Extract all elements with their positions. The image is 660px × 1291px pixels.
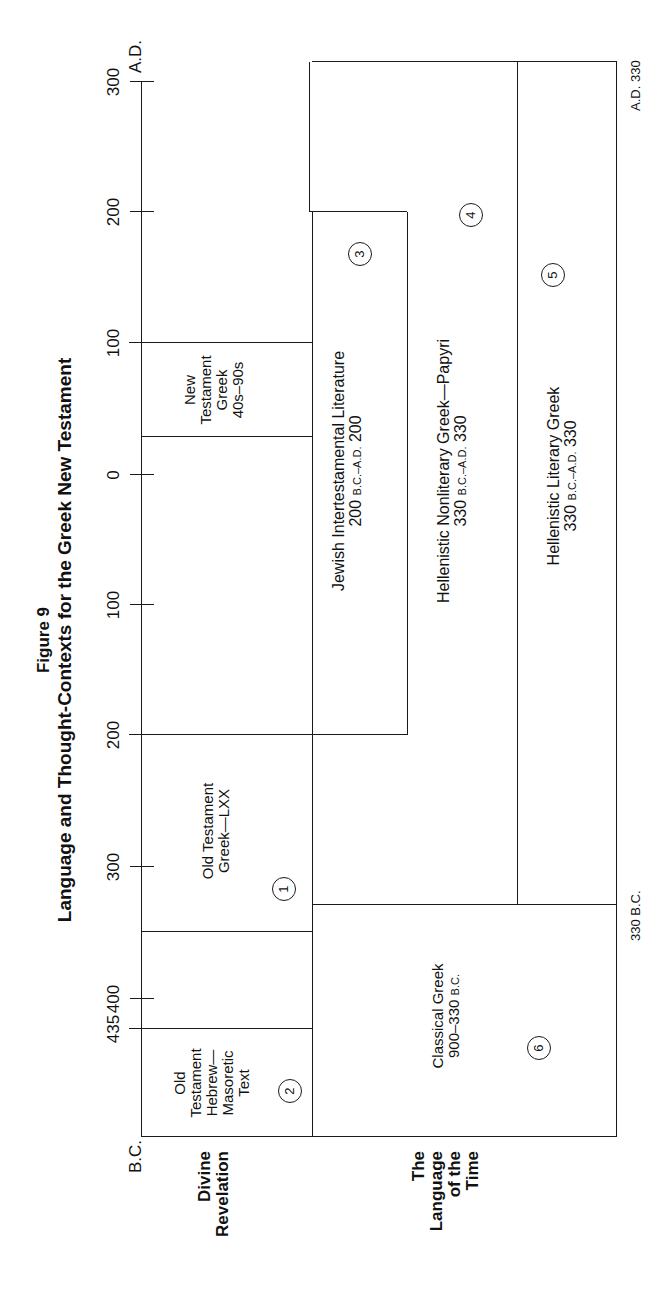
tick-label-0: 0	[104, 445, 124, 505]
tick-0	[130, 474, 154, 475]
box1-label: Old TestamentGreek—LXX	[200, 741, 232, 921]
tick-label-200ad: 200	[104, 182, 124, 242]
tick-label-300bc: 300	[104, 837, 124, 897]
tick-300bc	[130, 866, 154, 867]
label-ad330: A.D. 330	[628, 60, 643, 111]
divider-nt-start	[141, 436, 312, 437]
tick-label-200bc: 200	[104, 705, 124, 765]
circle-marker-6: 6	[527, 1036, 551, 1060]
tick-400bc	[130, 998, 154, 999]
tick-300ad	[130, 81, 154, 82]
box-nt-label: NewTestament Greek40s–90s	[182, 345, 246, 435]
time-row-right-edge	[312, 61, 617, 62]
tick-200ad	[130, 211, 154, 212]
figure-canvas: Figure 9 Language and Thought-Contexts f…	[0, 0, 660, 1291]
figure-number: Figure 9	[34, 440, 54, 840]
box3-end-200ad	[309, 211, 407, 212]
time-row-bottom-edge	[616, 62, 617, 1137]
tick-label-100ad: 100	[104, 313, 124, 373]
figure-title: Language and Thought-Contexts for the Gr…	[54, 290, 76, 990]
row-divider	[312, 211, 313, 1137]
tick-label-100bc: 100	[104, 575, 124, 635]
divider-330bc	[312, 904, 617, 905]
time-row-top-right	[309, 62, 310, 212]
label-330bc: 330 B.C.	[628, 890, 643, 941]
circle-marker-3: 3	[348, 242, 372, 266]
divider-200bc	[129, 734, 407, 735]
divider-350bc	[141, 931, 312, 932]
time-row-left-edge	[312, 1136, 617, 1137]
circle-marker-2: 2	[278, 1079, 302, 1103]
axis-era-bc: B.C.	[126, 1140, 146, 1173]
box3-label: Jewish Intertestamental Literature 200 B…	[330, 241, 366, 701]
box6-label: Classical Greek 900–330 B.C.	[430, 921, 463, 1111]
box5-label: Hellenistic Literary Greek 330 B.C.–A.D.…	[545, 261, 581, 691]
circle-marker-5: 5	[541, 263, 565, 287]
box4-label: Hellenistic Nonliterary Greek—Papyri 330…	[435, 221, 471, 721]
circle-marker-4: 4	[459, 203, 483, 227]
divider-100ad	[129, 342, 312, 343]
box3-bottom-edge	[407, 212, 408, 735]
divine-row-left-edge	[141, 1136, 312, 1137]
tick-label-400bc: 400	[104, 969, 124, 1029]
row-label-language-of-time: TheLanguage of theTime	[410, 1151, 482, 1261]
divider-435bc	[129, 1028, 312, 1029]
timeline-axis	[141, 82, 142, 1137]
circle-marker-1: 1	[272, 877, 296, 901]
tick-100bc	[130, 604, 154, 605]
axis-era-ad: A.D.	[126, 40, 146, 73]
row-label-divine-revelation: DivineRevelation	[196, 1151, 232, 1281]
box2-label: OldTestament Hebrew—Masoretic Text	[172, 1033, 252, 1133]
box4-box5-divider	[517, 62, 518, 905]
tick-label-300ad: 300	[104, 52, 124, 112]
